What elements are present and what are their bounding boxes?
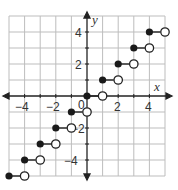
open-endpoint [161,28,169,36]
open-endpoint [20,172,28,180]
closed-endpoint [37,140,44,147]
closed-endpoint [5,172,12,179]
x-tick-label: 4 [145,100,152,114]
open-endpoint [130,60,138,68]
y-tick-label: −4 [64,154,78,168]
x-axis-label: x [153,79,160,94]
open-endpoint [52,140,60,148]
x-tick-label: −4 [15,100,29,114]
y-tick-label: 4 [75,26,82,40]
closed-endpoint [99,76,106,83]
closed-endpoint [21,156,28,163]
open-endpoint [98,92,106,100]
y-axis-label: y [90,12,98,27]
closed-endpoint [146,28,153,35]
step-function-graph: y x 0 −4 −2 2 4 4 2 −2 −4 [0,0,178,190]
closed-endpoint [68,108,75,115]
y-tick-label: 2 [75,58,82,72]
x-tick-label: 2 [114,100,121,114]
open-endpoint [83,108,91,116]
open-endpoint [145,44,153,52]
closed-endpoint [83,92,90,99]
closed-endpoint [115,60,122,67]
open-endpoint [67,124,75,132]
closed-endpoint [130,44,137,51]
open-endpoint [114,76,122,84]
x-tick-label: −2 [46,100,60,114]
closed-endpoint [52,124,59,131]
open-endpoint [36,156,44,164]
